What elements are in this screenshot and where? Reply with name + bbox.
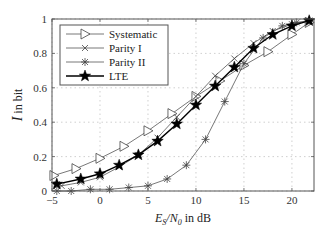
y-axis-label: I in bit	[10, 88, 25, 122]
star-marker-icon	[113, 159, 124, 170]
asterisk-marker-icon	[202, 135, 210, 143]
y-tick-label: 0	[42, 185, 48, 197]
asterisk-marker-icon	[144, 182, 152, 190]
x-tick-label: 10	[190, 194, 202, 206]
x-tick-label: 0	[97, 194, 103, 206]
y-tick-label: 0.8	[33, 47, 47, 59]
triangle-right-marker-icon	[144, 126, 153, 136]
x-tick-labels: −505101520	[46, 194, 298, 206]
legend-label: Parity II	[109, 56, 146, 68]
legend: SystematicParity IParity IILTE	[60, 25, 168, 85]
legend-label: Systematic	[109, 28, 157, 40]
x-tick-label: −5	[46, 194, 58, 206]
triangle-right-marker-icon	[72, 164, 81, 174]
chart: −505101520 00.20.40.60.81 ES/N0 in dB I …	[0, 0, 329, 233]
y-tick-label: 0.6	[33, 82, 47, 94]
x-axis-label: ES/N0 in dB	[154, 211, 211, 227]
asterisk-marker-icon	[86, 185, 94, 193]
asterisk-marker-icon	[182, 161, 190, 169]
y-tick-label: 0.4	[33, 116, 47, 128]
y-tick-label: 1	[42, 13, 48, 25]
asterisk-marker-icon	[81, 58, 89, 66]
x-tick-label: 15	[238, 194, 250, 206]
triangle-right-marker-icon	[264, 47, 273, 57]
star-marker-icon	[133, 149, 144, 160]
x-marker-icon	[212, 73, 218, 79]
triangle-right-marker-icon	[168, 109, 177, 119]
legend-label: Parity I	[109, 42, 142, 54]
y-tick-label: 0.2	[33, 151, 47, 163]
triangle-right-marker-icon	[50, 171, 59, 181]
asterisk-marker-icon	[221, 98, 229, 106]
legend-label: LTE	[109, 70, 128, 82]
asterisk-marker-icon	[106, 185, 114, 193]
y-tick-labels: 00.20.40.60.81	[33, 13, 47, 197]
triangle-right-marker-icon	[96, 153, 105, 163]
asterisk-marker-icon	[163, 175, 171, 183]
triangle-right-marker-icon	[120, 141, 129, 151]
x-tick-label: 5	[145, 194, 151, 206]
x-tick-label: 20	[286, 194, 298, 206]
asterisk-marker-icon	[125, 184, 133, 192]
